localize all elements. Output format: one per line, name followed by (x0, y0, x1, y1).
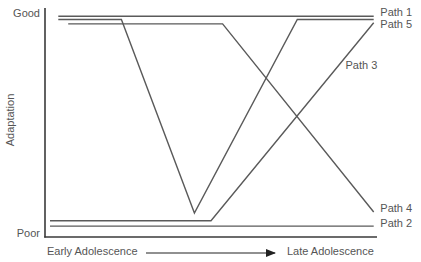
series-label-path-1: Path 1 (380, 6, 412, 18)
series-label-path-2: Path 2 (380, 217, 412, 229)
series-line-path-5 (58, 20, 373, 214)
series-line-path-4 (68, 24, 374, 212)
y-axis-poor-label: Poor (17, 228, 40, 239)
x-axis-start-label: Early Adolescence (47, 246, 138, 257)
series-label-path-3: Path 3 (346, 59, 378, 71)
series-line-path-3 (50, 23, 374, 221)
series-group: Path 1Path 5Path 4Path 3Path 2 (50, 6, 412, 229)
y-axis-title: Adaptation (5, 94, 16, 147)
series-label-path-5: Path 5 (380, 18, 412, 30)
x-axis-end-label: Late Adolescence (287, 246, 374, 257)
adaptation-paths-chart: Path 1Path 5Path 4Path 3Path 2 (0, 0, 421, 262)
y-axis-good-label: Good (13, 8, 40, 19)
series-label-path-4: Path 4 (380, 202, 412, 214)
